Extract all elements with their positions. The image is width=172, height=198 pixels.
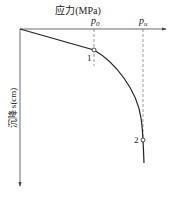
point-2-marker (141, 138, 145, 142)
point-2-label: 2 (134, 135, 139, 145)
point-1-marker (92, 48, 96, 52)
pu-label: pu (138, 15, 148, 28)
load-settlement-curve (20, 29, 144, 163)
point-1-label: 1 (87, 53, 92, 63)
y-axis-title: 沉降 s(cm) (7, 88, 18, 129)
load-settlement-diagram: 应力(MPa) p0 pu 1 2 沉降 s(cm) (0, 0, 172, 198)
p0-label: p0 (90, 15, 100, 28)
